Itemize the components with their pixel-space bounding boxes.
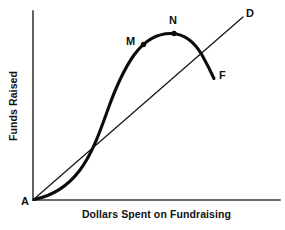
point-marker-n: [171, 31, 176, 36]
average-return-ray-AD: [34, 17, 244, 200]
point-label-f: F: [219, 70, 226, 81]
point-label-n: N: [169, 15, 177, 26]
chart-plot-area: [0, 0, 285, 230]
point-label-d: D: [246, 8, 254, 19]
x-axis-label: Dollars Spent on Fundraising: [33, 208, 280, 220]
y-axis-label: Funds Raised: [7, 70, 19, 140]
y-axis-label-wrapper: Funds Raised: [0, 11, 26, 200]
fundraising-response-curve-AMNF: [34, 33, 214, 199]
point-label-m: M: [126, 36, 135, 47]
fundraising-chart-figure: A M N D F Dollars Spent on Fundraising F…: [0, 0, 285, 230]
point-marker-m: [141, 42, 146, 47]
